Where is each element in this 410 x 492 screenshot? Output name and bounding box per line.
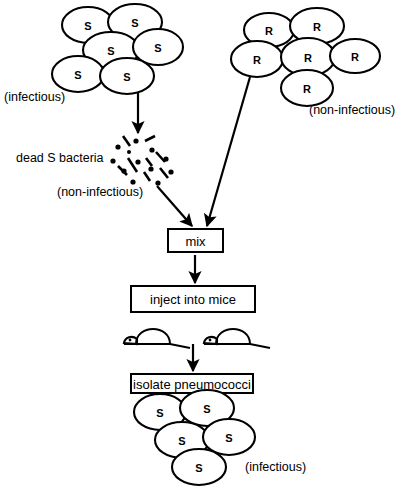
debris-particle	[121, 168, 126, 173]
cell-strain-label: R	[313, 21, 321, 33]
mouse-figure	[204, 329, 270, 348]
cell-strain-label: R	[351, 51, 359, 63]
debris-fragment	[144, 172, 150, 181]
recovered-colony-caption: (infectious)	[245, 460, 306, 474]
smooth-strain-colony: SSSSSS	[52, 4, 183, 94]
cell-strain-label: S	[203, 403, 210, 415]
cell-strain-label: S	[131, 17, 138, 29]
dead-s-bacteria-caption: (non-infectious)	[57, 185, 143, 199]
cell-strain-label: S	[195, 462, 202, 474]
bacterium-cell: R	[330, 39, 380, 73]
recovered-smooth-colony: SSSSS	[134, 390, 255, 485]
r-colony-caption: (non-infectious)	[309, 103, 395, 117]
bacterium-cell: S	[52, 56, 104, 92]
heat-killed-debris	[110, 136, 173, 186]
arrow-r-to-mix	[207, 77, 250, 226]
mouse-eye	[209, 339, 212, 342]
bacterium-cell: S	[172, 449, 226, 485]
griffith-experiment-diagram: SSSSSS RRRRRR mixinject into miceisolate…	[0, 0, 410, 492]
mouse-tail	[204, 344, 270, 348]
debris-particle	[155, 180, 160, 185]
bacterium-cell: R	[281, 70, 333, 106]
debris-particle	[135, 159, 140, 164]
mouse-body	[216, 329, 250, 344]
s-colony-caption: (infectious)	[4, 90, 65, 104]
bacterium-cell: S	[203, 419, 255, 455]
mouse-tail	[124, 344, 190, 348]
cell-strain-label: S	[84, 20, 91, 32]
cell-strain-label: R	[303, 83, 311, 95]
debris-particle	[133, 138, 138, 143]
mouse-figure	[124, 329, 190, 348]
cell-strain-label: S	[107, 45, 114, 57]
debris-particle	[127, 150, 131, 154]
cell-strain-label: S	[225, 432, 232, 444]
debris-fragment	[123, 136, 130, 146]
mouse-eye	[129, 339, 132, 342]
dead-s-bacteria-label: dead S bacteria	[16, 151, 104, 165]
debris-particle	[163, 156, 168, 161]
inject-into-mice-box-label: inject into mice	[150, 292, 236, 307]
injected-mice	[124, 329, 270, 348]
isolate-pneumococci-box-label: isolate pneumococci	[133, 377, 251, 392]
cell-strain-label: R	[265, 25, 273, 37]
debris-fragment	[128, 158, 137, 172]
cell-strain-label: S	[74, 69, 81, 81]
cell-strain-label: S	[154, 42, 161, 54]
debris-particle	[115, 144, 120, 149]
debris-particle	[149, 147, 154, 152]
rough-strain-colony: RRRRRR	[231, 8, 380, 106]
cell-strain-label: S	[123, 71, 130, 83]
cell-strain-label: S	[156, 407, 163, 419]
bacterium-cell: S	[100, 58, 154, 94]
figure-canvas: SSSSSS RRRRRR mixinject into miceisolate…	[0, 0, 410, 492]
cell-strain-label: R	[304, 52, 312, 64]
debris-particle	[168, 169, 173, 174]
flow-arrows	[138, 77, 250, 371]
debris-fragment	[156, 152, 165, 162]
mouse-body	[136, 329, 170, 344]
cell-strain-label: S	[178, 435, 185, 447]
isolate-pneumococci-box[interactable]: isolate pneumococci	[131, 374, 253, 393]
debris-particle	[130, 179, 135, 184]
arrow-debris-to-mix	[157, 186, 192, 226]
debris-fragment	[146, 158, 152, 166]
mix-box[interactable]: mix	[168, 229, 223, 252]
debris-fragment	[160, 168, 168, 178]
bacterium-cell: R	[231, 41, 283, 77]
debris-fragment	[145, 136, 155, 141]
debris-particle	[148, 166, 153, 171]
mix-box-label: mix	[185, 234, 206, 249]
cell-strain-label: R	[253, 54, 261, 66]
debris-particle	[110, 158, 115, 163]
inject-into-mice-box[interactable]: inject into mice	[131, 286, 255, 312]
